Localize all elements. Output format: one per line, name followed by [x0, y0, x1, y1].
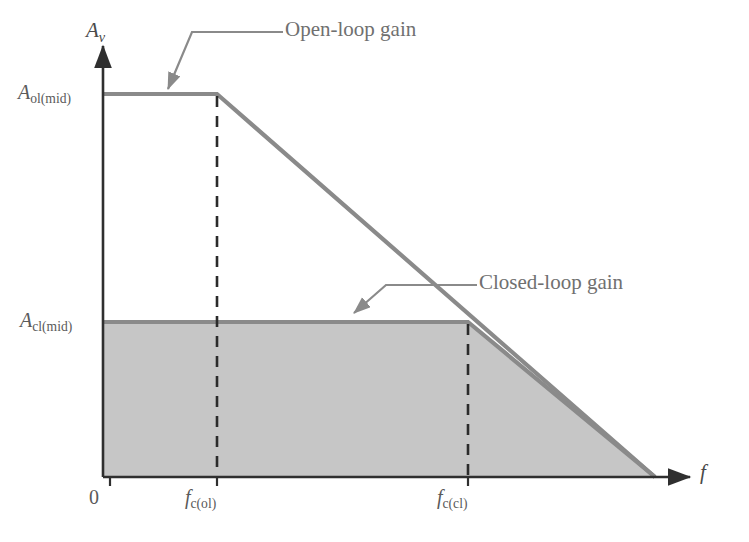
closed-loop-gain-callout: Closed-loop gain [479, 272, 623, 293]
x-tick-label-fc-ol: fc(ol) [185, 487, 216, 507]
x-tick-fccl-base: f [437, 486, 443, 508]
y-tick-label-acl-mid: Acl(mid) [20, 310, 72, 330]
y-tick-aol-subscript: ol(mid) [30, 91, 71, 106]
open-loop-gain-callout: Open-loop gain [285, 19, 416, 40]
x-tick-fccl-subscript: c(cl) [443, 496, 468, 511]
y-tick-acl-base: A [20, 309, 32, 331]
plot-canvas [0, 0, 749, 542]
y-tick-label-aol-mid: Aol(mid) [18, 82, 71, 102]
closed-loop-shaded-region [103, 322, 655, 477]
y-axis-label-base: A [86, 18, 99, 42]
y-axis-label: Av [86, 20, 105, 41]
closed-loop-leader-line [354, 285, 477, 313]
y-tick-aol-base: A [18, 81, 30, 103]
origin-label: 0 [89, 487, 99, 507]
x-tick-label-fc-cl: fc(cl) [437, 487, 467, 507]
open-loop-leader-line [168, 32, 283, 89]
x-tick-fcol-subscript: c(ol) [191, 496, 217, 511]
gain-bandwidth-figure: Av Aol(mid) Acl(mid) 0 fc(ol) fc(cl) f O… [0, 0, 749, 542]
x-tick-fcol-base: f [185, 486, 191, 508]
y-axis-label-subscript: v [99, 29, 105, 45]
y-tick-acl-subscript: cl(mid) [32, 319, 72, 334]
x-axis-label: f [700, 462, 706, 483]
